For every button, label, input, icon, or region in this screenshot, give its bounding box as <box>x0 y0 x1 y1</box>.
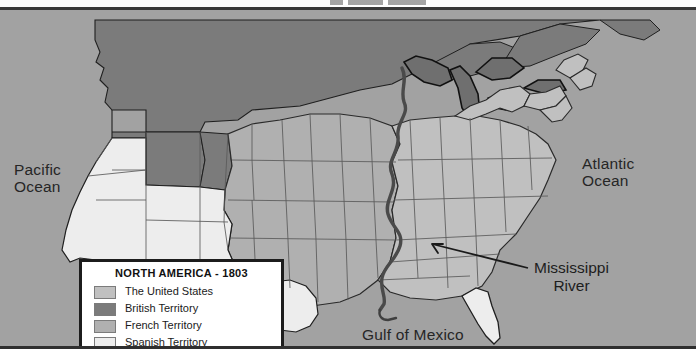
river-delta <box>379 310 396 320</box>
map-figure: Pacific Ocean Atlantic Ocean Gulf of Mex… <box>0 0 696 359</box>
label-pacific-ocean: Pacific Ocean <box>14 161 61 195</box>
legend-swatch-british-territory <box>94 303 116 316</box>
legend-label-british-territory: British Territory <box>125 302 198 314</box>
label-gulf-of-mexico: Gulf of Mexico <box>362 326 464 343</box>
label-atlantic-ocean: Atlantic Ocean <box>582 155 634 189</box>
bottom-white-strip <box>0 349 696 359</box>
legend-label-united-states: The United States <box>125 285 213 297</box>
legend-swatch-french-territory <box>94 320 116 333</box>
map-canvas: Pacific Ocean Atlantic Ocean Gulf of Mex… <box>0 10 696 348</box>
cropped-title-fragment <box>330 0 426 5</box>
legend-title: NORTH AMERICA - 1803 <box>82 267 281 279</box>
legend-swatch-united-states <box>94 286 116 299</box>
map-legend: NORTH AMERICA - 1803 The United States B… <box>79 259 284 349</box>
legend-label-french-territory: French Territory <box>125 319 202 331</box>
label-mississippi-river: Mississippi River <box>534 259 609 295</box>
